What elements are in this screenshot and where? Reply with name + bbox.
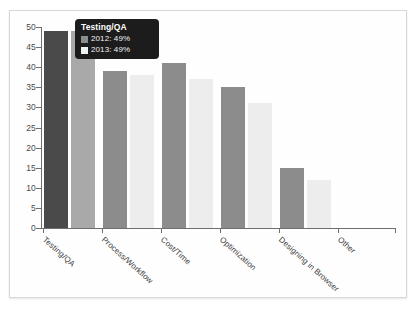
bar-process-workflow-2012[interactable] <box>103 71 127 228</box>
chart-tooltip: Testing/QA 2012: 49%2013: 49% <box>75 19 159 59</box>
x-axis-tick-label: Other <box>336 235 357 255</box>
x-axis-tick <box>161 228 162 233</box>
y-axis-tick-label: 50 <box>10 23 36 31</box>
x-axis-tick <box>338 228 339 233</box>
bar-cost-time-2012[interactable] <box>162 63 186 228</box>
y-axis-tick-label: 45 <box>10 43 36 51</box>
y-axis-tick-label: 35 <box>10 83 36 91</box>
x-axis-tick <box>279 228 280 233</box>
bar-optimization-2012[interactable] <box>221 87 245 228</box>
y-axis-tick-label: 25 <box>10 124 36 132</box>
tooltip-rows: 2012: 49%2013: 49% <box>81 34 153 55</box>
tooltip-swatch-icon <box>81 47 88 54</box>
x-axis-tick-label: Testing/QA <box>41 235 77 269</box>
tooltip-row: 2012: 49% <box>81 34 153 44</box>
y-axis-tick-label: 0 <box>10 224 36 232</box>
tooltip-row: 2013: 49% <box>81 45 153 55</box>
y-axis-tick-label: 30 <box>10 103 36 111</box>
x-axis-tick <box>395 228 396 233</box>
bar-process-workflow-2013[interactable] <box>130 75 154 228</box>
x-axis-tick-label: Optimization <box>218 235 258 272</box>
y-axis-tick-label: 20 <box>10 144 36 152</box>
bar-cost-time-2013[interactable] <box>189 79 213 228</box>
tooltip-row-label: 2013: 49% <box>91 45 130 55</box>
x-axis-line <box>41 228 396 229</box>
bar-chart: 50454035302520151050 Testing/QAProcess/W… <box>10 11 408 299</box>
y-axis-tick <box>36 228 42 229</box>
x-axis-tick-label: Designing in Browser <box>277 235 341 294</box>
bar-testing-qa-2013[interactable] <box>71 31 95 228</box>
bar-testing-qa-2012[interactable] <box>44 31 68 228</box>
bar-optimization-2013[interactable] <box>248 103 272 228</box>
chart-screenshot: 50454035302520151050 Testing/QAProcess/W… <box>0 0 419 313</box>
x-axis-tick-label: Process/Workflow <box>100 235 155 285</box>
y-axis-tick-label: 40 <box>10 63 36 71</box>
x-axis-tick <box>220 228 221 233</box>
tooltip-title: Testing/QA <box>81 22 153 33</box>
tooltip-row-label: 2012: 49% <box>91 34 130 44</box>
x-axis-tick <box>43 228 44 233</box>
bar-designing-in-browser-2012[interactable] <box>280 168 304 228</box>
chart-frame: 50454035302520151050 Testing/QAProcess/W… <box>9 10 407 298</box>
x-axis-tick <box>102 228 103 233</box>
y-axis-tick-label: 5 <box>10 204 36 212</box>
x-axis-tick-label: Cost/Time <box>159 235 193 266</box>
tooltip-swatch-icon <box>81 36 88 43</box>
y-axis-tick-label: 10 <box>10 184 36 192</box>
bar-designing-in-browser-2013[interactable] <box>307 180 331 228</box>
y-axis-tick-label: 15 <box>10 164 36 172</box>
